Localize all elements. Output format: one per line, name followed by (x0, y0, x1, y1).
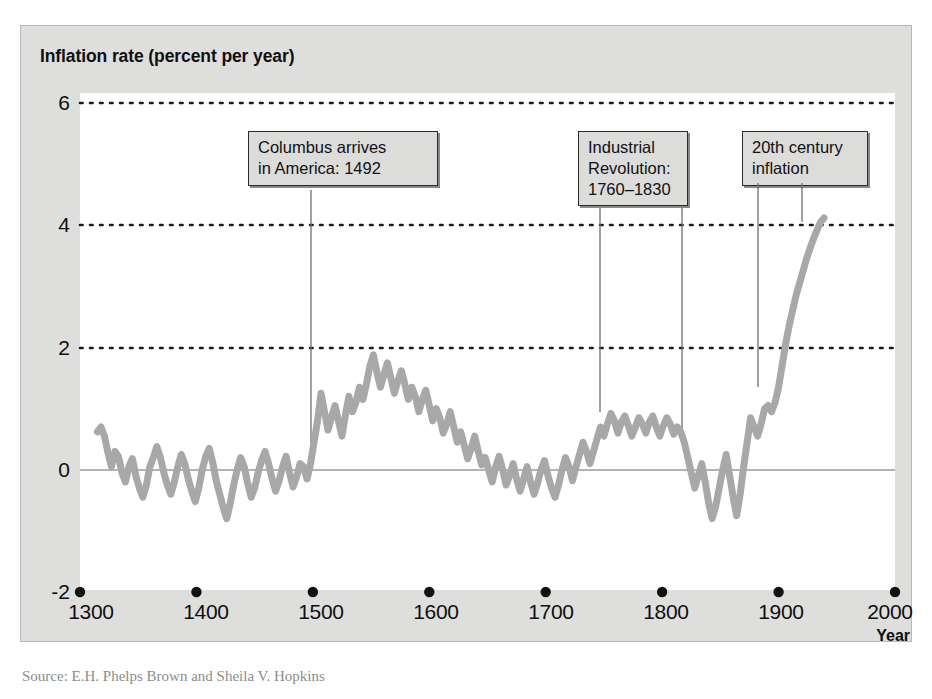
inflation-rate-line (97, 218, 824, 519)
x-axis-dot-1600 (424, 587, 434, 597)
x-axis-dot-1900 (773, 587, 783, 597)
x-axis-dot-1800 (657, 587, 667, 597)
annotation-leader-lines (311, 183, 802, 470)
x-axis-dot-1700 (541, 587, 551, 597)
source-note: Source: E.H. Phelps Brown and Sheila V. … (22, 668, 325, 685)
x-axis-tick-dots (75, 587, 900, 597)
source-note-text: Source: E.H. Phelps Brown and Sheila V. … (22, 668, 325, 684)
chart-graphics (0, 0, 932, 699)
x-axis-dot-1500 (308, 587, 318, 597)
x-axis-dot-1300 (75, 587, 85, 597)
x-axis-dot-1400 (191, 587, 201, 597)
figure-container: Inflation rate (percent per year) 6 4 2 … (0, 0, 932, 699)
x-axis-dot-2000 (890, 587, 900, 597)
